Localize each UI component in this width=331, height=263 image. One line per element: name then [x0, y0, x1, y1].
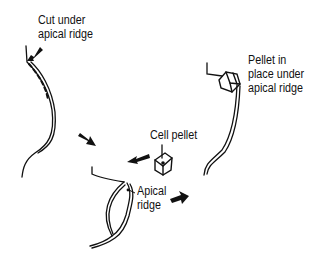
- label-pellet-in-place-line2: place under: [248, 68, 304, 81]
- label-pellet-in-place-line3: apical ridge: [248, 82, 303, 95]
- limb-bud-cut-stage: [22, 46, 55, 177]
- label-pellet-in-place-line1: Pellet in: [248, 54, 286, 67]
- label-cut-line2: apical ridge: [38, 28, 93, 41]
- arrow-cut-pointer: [27, 47, 43, 61]
- apical-ridge-dot: [127, 189, 130, 192]
- label-cut-line1: Cut under: [38, 14, 85, 27]
- pellet-dot: [161, 161, 165, 165]
- arrow-step2-to-step3: [170, 191, 189, 204]
- label-apical-ridge-line1: Apical: [137, 185, 166, 198]
- diagram-canvas: Cut under apical ridge Cell pellet Apica…: [0, 0, 331, 263]
- label-apical-ridge-line2: ridge: [137, 199, 161, 212]
- arrow-pellet-insert: [127, 154, 150, 164]
- arrow-step1-to-step2: [78, 133, 96, 146]
- label-cell-pellet: Cell pellet: [150, 129, 197, 142]
- limb-bud-result-stage: [204, 63, 240, 175]
